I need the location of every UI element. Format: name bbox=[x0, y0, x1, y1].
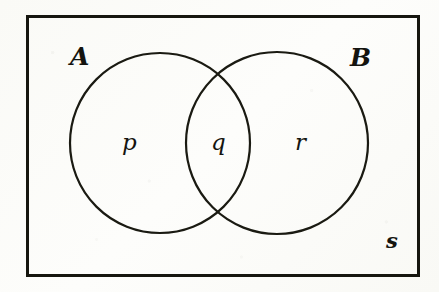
region-q-label: q bbox=[211, 131, 226, 154]
venn-diagram-page: A B p q r s bbox=[0, 0, 439, 292]
universal-set-label: s bbox=[386, 230, 398, 251]
set-a-label: A bbox=[70, 44, 89, 69]
region-r-label: r bbox=[295, 131, 306, 154]
region-p-label: p bbox=[122, 131, 137, 154]
set-b-label: B bbox=[350, 45, 371, 70]
